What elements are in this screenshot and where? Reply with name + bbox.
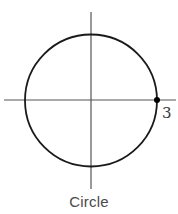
marked-point	[154, 97, 160, 103]
figure-caption: Circle	[0, 193, 178, 210]
point-label: 3	[162, 104, 172, 122]
circle-diagram: 3	[0, 0, 178, 214]
